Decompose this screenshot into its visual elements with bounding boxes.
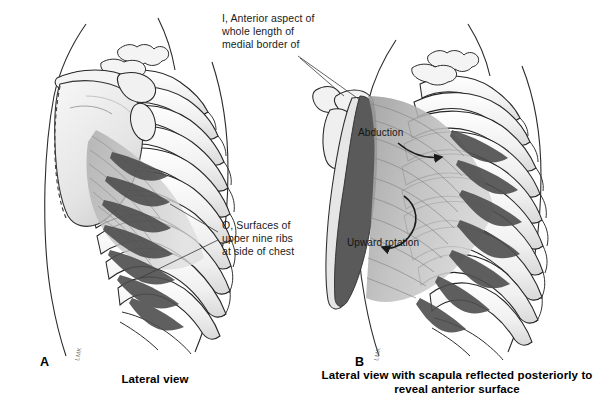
anatomy-illustration	[0, 0, 599, 409]
callout-insertion: I, Anterior aspect of whole length of me…	[222, 12, 315, 52]
label-upward-rotation: Upward rotation	[347, 237, 419, 248]
panel-a-illustration	[45, 18, 236, 356]
panel-b-caption: Lateral view with scapula reflected post…	[318, 368, 596, 396]
panel-a-letter: A	[40, 355, 49, 369]
panel-a-caption: Lateral view	[60, 372, 250, 386]
callout-origin: O, Surfaces of upper nine ribs at side o…	[222, 219, 294, 259]
panel-b-caption-line1: Lateral view with scapula reflected post…	[322, 369, 579, 381]
panel-b-illustration	[298, 24, 548, 360]
label-abduction: Abduction	[358, 127, 403, 138]
panel-b-letter: B	[355, 355, 364, 369]
anatomy-figure: I, Anterior aspect of whole length of me…	[0, 0, 599, 409]
